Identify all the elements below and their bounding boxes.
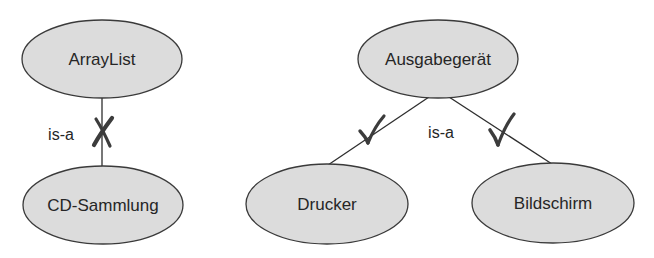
is-a-edge-ausgabegeraet-bildschirm (449, 97, 552, 164)
node-arraylist-label: ArrayList (68, 50, 135, 69)
node-ausgabegeraet: Ausgabegerät (358, 20, 518, 98)
node-cdsammlung: CD-Sammlung (23, 166, 183, 244)
node-bildschirm-label: Bildschirm (514, 194, 592, 213)
node-drucker: Drucker (246, 164, 408, 244)
relation-label-right: is-a (428, 124, 454, 141)
node-cdsammlung-label: CD-Sammlung (47, 196, 158, 215)
relation-label-left: is-a (48, 126, 74, 143)
node-drucker-label: Drucker (297, 195, 357, 214)
is-a-diagram: ArrayList CD-Sammlung is-a Ausgabegerät … (0, 0, 654, 258)
left-diagram: ArrayList CD-Sammlung is-a (22, 20, 183, 244)
right-diagram: Ausgabegerät Drucker Bildschirm is-a (246, 20, 634, 244)
node-bildschirm: Bildschirm (472, 163, 634, 243)
cross-mark-icon (94, 118, 112, 146)
is-a-edge-ausgabegeraet-drucker (328, 97, 429, 165)
check-mark-icon (490, 114, 514, 145)
node-arraylist: ArrayList (22, 20, 182, 98)
node-ausgabegeraet-label: Ausgabegerät (385, 50, 491, 69)
